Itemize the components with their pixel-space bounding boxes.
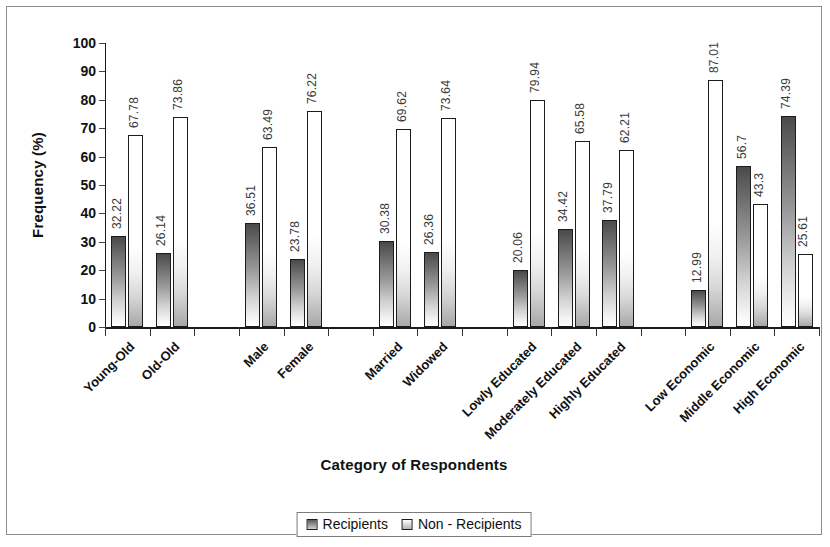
y-axis-tick-label: 100 [73,35,96,51]
bar-group: 26.1473.86 [150,43,195,327]
legend-label: Non - Recipients [418,516,522,532]
x-axis-tick [730,327,731,336]
bar-nonrecipients[interactable]: 65.58 [575,141,590,327]
x-axis-tick [150,327,151,336]
bar-value-label: 65.58 [573,103,587,134]
bar-value-label: 69.62 [395,91,409,122]
bar-nonrecipients[interactable]: 87.01 [708,80,723,327]
bar-recipients[interactable]: 34.42 [558,229,573,327]
bar-recipients[interactable]: 37.79 [602,220,617,327]
legend-item[interactable]: Recipients [307,516,388,532]
bar-nonrecipients[interactable]: 67.78 [128,135,143,327]
bar-group: 30.3869.62 [373,43,418,327]
bar-value-label: 76.22 [305,73,319,104]
y-axis-tick-label: 90 [80,63,96,79]
bar-nonrecipients[interactable]: 63.49 [262,147,277,327]
bar-value-label: 43.3 [752,173,766,197]
bar-recipients[interactable]: 36.51 [245,223,260,327]
bar-recipients[interactable]: 32.22 [111,236,126,328]
bar-value-label: 63.49 [261,109,275,140]
bar-group [194,43,239,327]
bar-group: 20.0679.94 [507,43,552,327]
bar-value-label: 23.78 [288,221,302,252]
y-axis-tick-label: 30 [80,234,96,250]
bar-recipients[interactable]: 26.14 [156,253,171,327]
x-axis-title: Category of Respondents [7,456,821,473]
x-axis-tick [284,327,285,336]
x-axis-tick [507,327,508,336]
bar-nonrecipients[interactable]: 43.3 [753,204,768,327]
x-axis-tick [194,327,195,336]
bar-value-label: 62.21 [618,112,632,143]
bar-group [328,43,373,327]
x-axis-tick [105,327,106,336]
x-axis-title-text: Category of Respondents [320,456,507,473]
y-axis-tick-label: 70 [80,120,96,136]
bar-value-label: 34.42 [556,191,570,222]
y-axis-tick-label: 80 [80,92,96,108]
bar-nonrecipients[interactable]: 69.62 [396,129,411,327]
x-axis-tick [819,327,820,336]
bar-value-label: 32.22 [110,197,124,228]
bar-group: 12.9987.01 [685,43,730,327]
bar-value-label: 79.94 [528,62,542,93]
bar-nonrecipients[interactable]: 73.64 [441,118,456,327]
bar-value-label: 37.79 [601,182,615,213]
bar-value-label: 74.39 [779,78,793,109]
bar-value-label: 73.86 [171,79,185,110]
bar-value-label: 30.38 [378,203,392,234]
bar-group [641,43,686,327]
bar-nonrecipients[interactable]: 62.21 [619,150,634,327]
bar-group: 34.4265.58 [551,43,596,327]
bar-recipients[interactable]: 30.38 [379,241,394,327]
bar-nonrecipients[interactable]: 73.86 [173,117,188,327]
x-axis-tick [596,327,597,336]
bar-recipients[interactable]: 23.78 [290,259,305,327]
bar-group: 26.3673.64 [417,43,462,327]
y-axis-tick-label: 0 [88,319,96,335]
y-axis-tick-label: 10 [80,291,96,307]
non-recipients-swatch-icon [402,519,413,530]
y-axis-tick-label: 20 [80,262,96,278]
chart-legend: RecipientsNon - Recipients [297,512,532,537]
x-axis-tick [685,327,686,336]
bar-value-label: 26.14 [154,215,168,246]
bar-nonrecipients[interactable]: 79.94 [530,100,545,327]
y-axis-title: Frequency (%) [25,43,49,327]
bar-group: 37.7962.21 [596,43,641,327]
bar-recipients[interactable]: 26.36 [424,252,439,327]
bar-nonrecipients[interactable]: 76.22 [307,111,322,327]
bar-nonrecipients[interactable]: 25.61 [798,254,813,327]
bar-recipients[interactable]: 12.99 [691,290,706,327]
bar-value-label: 87.01 [707,42,721,73]
bar-recipients[interactable]: 74.39 [781,116,796,327]
x-axis-tick [462,327,463,336]
x-axis-tick [551,327,552,336]
bar-group: 32.2267.78 [105,43,150,327]
bar-value-label: 25.61 [796,216,810,247]
y-axis-tick-label: 60 [80,149,96,165]
x-axis-tick [641,327,642,336]
recipients-swatch-icon [307,519,318,530]
x-axis-tick [239,327,240,336]
bar-value-label: 56.7 [735,135,749,159]
bar-group: 23.7876.22 [284,43,329,327]
bar-group: 36.5163.49 [239,43,284,327]
x-axis-tick [328,327,329,336]
bar-value-label: 12.99 [690,252,704,283]
bar-group: 74.3925.61 [774,43,819,327]
plot-area: 0102030405060708090100 32.2267.7826.1473… [105,43,819,327]
bar-group: 56.743.3 [730,43,775,327]
x-axis-tick [774,327,775,336]
y-axis-title-text: Frequency (%) [29,132,46,238]
y-axis-tick-label: 40 [80,205,96,221]
bar-recipients[interactable]: 20.06 [513,270,528,327]
bar-value-label: 36.51 [244,185,258,216]
y-axis-tick-label: 50 [80,177,96,193]
legend-item[interactable]: Non - Recipients [402,516,522,532]
bar-recipients[interactable]: 56.7 [736,166,751,327]
bar-value-label: 26.36 [422,214,436,245]
x-axis-tick [373,327,374,336]
chart-frame: Frequency (%) 0102030405060708090100 32.… [6,6,822,535]
x-axis-tick [417,327,418,336]
